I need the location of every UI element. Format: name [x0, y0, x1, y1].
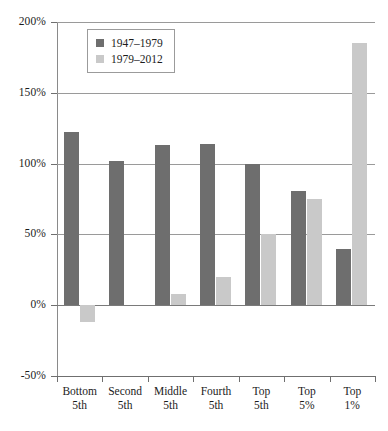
x-tick-mark: [330, 376, 331, 382]
legend: 1947–19791979–2012: [87, 29, 175, 73]
cat-label-line2: 5%: [284, 399, 329, 413]
cat-label-line2: 5th: [148, 399, 193, 413]
cat-label-line2: 5th: [57, 399, 102, 413]
y-tick-label: 150%: [0, 86, 46, 98]
y-tick-label: 50%: [0, 227, 46, 239]
x-category-label: Top1%: [330, 385, 375, 412]
legend-item: 1947–1979: [96, 35, 163, 51]
x-category-label: Middle5th: [148, 385, 193, 412]
legend-label: 1947–1979: [111, 37, 163, 49]
x-tick-mark: [375, 376, 376, 382]
cat-label-line1: Top: [253, 385, 271, 397]
bar-series-b-4: [261, 234, 276, 305]
y-tick-label: 200%: [0, 15, 46, 27]
x-tick-mark: [102, 376, 103, 382]
bar-series-a-5: [291, 191, 306, 306]
plot-area: [57, 22, 375, 376]
x-axis-line: [57, 376, 375, 377]
cat-label-line1: Middle: [154, 385, 187, 397]
y-tick-label: 0%: [0, 298, 46, 310]
x-tick-mark: [57, 376, 58, 382]
gridline-100: [57, 164, 375, 165]
y-tick-label: -50%: [0, 369, 46, 381]
legend-label: 1979–2012: [111, 53, 163, 65]
bar-series-b-0: [80, 305, 95, 322]
gridline-150: [57, 93, 375, 94]
bar-series-a-1: [109, 161, 124, 305]
cat-label-line2: 1%: [330, 399, 375, 413]
zero-gridline: [57, 305, 375, 306]
bar-series-a-0: [64, 132, 79, 305]
cat-label-line2: 5th: [193, 399, 238, 413]
legend-swatch-icon: [96, 39, 104, 47]
cat-label-line1: Top: [298, 385, 316, 397]
gridline-200: [57, 22, 375, 23]
bar-series-a-4: [245, 164, 260, 306]
bar-chart: 200%150%100%50%0%-50% Bottom5thSecond5th…: [0, 0, 388, 431]
bar-series-b-6: [352, 43, 367, 305]
cat-label-line1: Second: [108, 385, 142, 397]
legend-swatch-icon: [96, 55, 104, 63]
legend-item: 1979–2012: [96, 51, 163, 67]
cat-label-line1: Top: [343, 385, 361, 397]
bar-series-a-6: [336, 249, 351, 306]
gridline-50: [57, 234, 375, 235]
cat-label-line2: 5th: [239, 399, 284, 413]
bar-series-b-5: [307, 199, 322, 305]
cat-label-line1: Bottom: [62, 385, 97, 397]
y-tick-label: 100%: [0, 157, 46, 169]
cat-label-line2: 5th: [102, 399, 147, 413]
x-category-label: Bottom5th: [57, 385, 102, 412]
x-tick-mark: [148, 376, 149, 382]
x-category-label: Fourth5th: [193, 385, 238, 412]
bar-series-b-3: [216, 277, 231, 305]
x-tick-mark: [284, 376, 285, 382]
x-category-label: Second5th: [102, 385, 147, 412]
bar-series-a-2: [155, 145, 170, 305]
bar-series-a-3: [200, 144, 215, 305]
x-tick-mark: [193, 376, 194, 382]
x-tick-mark: [239, 376, 240, 382]
x-category-label: Top5%: [284, 385, 329, 412]
bar-series-b-2: [171, 294, 186, 305]
x-category-label: Top5th: [239, 385, 284, 412]
cat-label-line1: Fourth: [201, 385, 232, 397]
